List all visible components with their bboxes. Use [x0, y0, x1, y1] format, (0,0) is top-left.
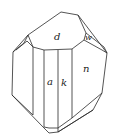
face-label-w: w [85, 33, 92, 42]
face-label-d: d [54, 31, 60, 42]
face-label-k: k [61, 77, 67, 88]
crystal-diagram: d w a k n [0, 0, 120, 140]
left-lower-edge [12, 95, 33, 115]
face-label-n: n [83, 63, 89, 74]
face-label-a: a [47, 76, 53, 87]
bottom-right-edge-2 [58, 110, 93, 132]
crystal-drawing: d w a k n [0, 0, 120, 140]
bottom-edge [44, 127, 58, 128]
bottom-right-edge [58, 93, 102, 128]
